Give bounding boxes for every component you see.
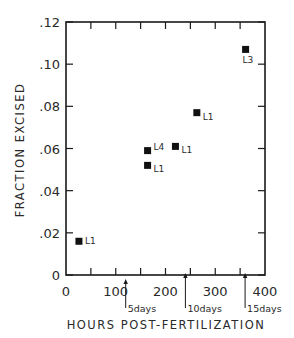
data-point-label: L1	[154, 164, 165, 174]
y-tick-label: .06	[39, 142, 60, 157]
plot-frame	[66, 22, 265, 275]
data-point-marker	[144, 147, 151, 154]
y-axis-title: FRACTION EXCISED	[13, 83, 27, 218]
data-point-label: L4	[154, 142, 165, 152]
day-annotation-label: 15days	[247, 303, 282, 314]
arrow-head-icon	[124, 279, 128, 284]
y-tick-label: .08	[39, 99, 60, 114]
x-tick-label: 400	[253, 284, 278, 299]
day-annotation-label: 5days	[128, 303, 157, 314]
y-tick-label: .02	[39, 226, 60, 241]
data-point-marker	[172, 143, 179, 150]
plot-border	[66, 22, 265, 275]
y-tick-label: .10	[39, 57, 60, 72]
data-points: L1L1L4L1L1L3	[75, 46, 253, 246]
y-tick-label: 0	[52, 268, 60, 283]
x-tick-label: 0	[62, 284, 70, 299]
x-axis-title: HOURS POST-FERTILIZATION	[67, 318, 266, 332]
x-tick-label: 300	[203, 284, 228, 299]
data-point-marker	[193, 109, 200, 116]
y-tick-label: .12	[39, 15, 60, 30]
data-point-label: L1	[181, 145, 192, 155]
day-annotation-label: 10days	[187, 303, 222, 314]
data-point-label: L1	[203, 112, 214, 122]
y-tick-label: .04	[39, 184, 60, 199]
x-tick-label: 200	[153, 284, 178, 299]
data-point-label: L1	[85, 236, 96, 246]
data-point-label: L3	[243, 55, 254, 65]
data-point-marker	[242, 46, 249, 53]
data-point-marker	[75, 238, 82, 245]
y-axis: 0.02.04.06.08.10.12	[39, 15, 265, 283]
scatter-chart: 0.02.04.06.08.10.12 0100200300400 L1L1L4…	[0, 0, 294, 338]
x-tick-label: 100	[103, 284, 128, 299]
data-point-marker	[144, 162, 151, 169]
